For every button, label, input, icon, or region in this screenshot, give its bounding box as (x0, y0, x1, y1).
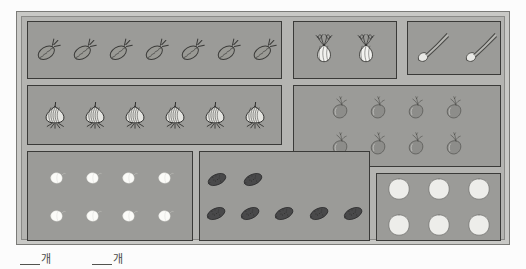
cucumber-icon (337, 200, 369, 226)
scallion-icon (409, 28, 451, 68)
unit-label-1: 개 (41, 253, 51, 266)
fennel-bulb-icon (350, 32, 382, 68)
potato-icon (423, 210, 455, 240)
garlic-clove-icon (44, 166, 68, 188)
answer-caption-row: 개 개 (0, 250, 526, 269)
eggplant-icon (365, 92, 391, 124)
worksheet-page: 개 개 (0, 0, 526, 269)
onion-grid (28, 86, 281, 144)
garlic-clove-icon (116, 166, 140, 188)
cucumber-icon (234, 200, 266, 226)
answer-blank-2[interactable]: 개 (92, 250, 123, 266)
eggplant-icon (403, 128, 429, 160)
garlic-grid (28, 152, 192, 240)
cucumber-icon (200, 200, 232, 226)
cucumber-icon (236, 166, 270, 192)
onion-icon (120, 98, 150, 132)
onion-icon (160, 98, 190, 132)
crate-interior (21, 16, 505, 240)
compartment-scallions[interactable] (407, 21, 501, 75)
produce-crate-frame (16, 11, 510, 245)
blank-line-2[interactable] (92, 255, 112, 265)
compartment-potatoes[interactable] (376, 173, 501, 241)
garlic-clove-icon (152, 166, 176, 188)
potato-icon (423, 174, 455, 204)
garlic-clove-icon (80, 204, 104, 226)
eggplants-row (294, 92, 500, 124)
compartment-cucumbers[interactable] (199, 151, 370, 241)
carrot-icon (138, 33, 172, 67)
carrot-row (28, 33, 281, 67)
cucumbers-row (200, 166, 369, 192)
potato-icon (463, 210, 495, 240)
cucumbers-row (200, 200, 369, 226)
potatoes-row (377, 210, 500, 240)
potato-icon (383, 210, 415, 240)
onion-icon (80, 98, 110, 132)
onion-row (28, 98, 281, 132)
potatoes-row (377, 174, 500, 204)
carrot-icon (246, 33, 280, 67)
compartment-onions[interactable] (27, 85, 282, 145)
scallion-grid (408, 22, 500, 74)
eggplant-icon (441, 128, 467, 160)
eggplant-icon (327, 92, 353, 124)
eggplant-icon (441, 92, 467, 124)
cucumber-grid (200, 152, 369, 240)
carrot-grid (28, 22, 281, 78)
cucumber-icon (303, 200, 335, 226)
compartment-fennel[interactable] (293, 21, 397, 79)
cucumber-icon (200, 166, 234, 192)
garlic-clove-icon (44, 204, 68, 226)
garlic-row (28, 204, 192, 226)
eggplant-icon (403, 92, 429, 124)
blank-line-1[interactable] (20, 255, 40, 265)
fennel-row (294, 32, 396, 68)
garlic-clove-icon (152, 204, 176, 226)
garlic-row (28, 166, 192, 188)
garlic-clove-icon (116, 204, 140, 226)
scallion-row (408, 28, 500, 68)
onion-icon (40, 98, 70, 132)
potato-icon (383, 174, 415, 204)
answer-blank-1[interactable]: 개 (20, 250, 51, 266)
scallion-icon (457, 28, 499, 68)
garlic-clove-icon (80, 166, 104, 188)
compartment-carrots[interactable] (27, 21, 282, 79)
carrot-icon (30, 33, 64, 67)
carrot-icon (102, 33, 136, 67)
fennel-grid (294, 22, 396, 78)
onion-icon (240, 98, 270, 132)
onion-icon (200, 98, 230, 132)
potato-grid (377, 174, 500, 240)
compartment-garlic[interactable] (27, 151, 193, 241)
cucumber-icon (268, 200, 300, 226)
fennel-bulb-icon (308, 32, 340, 68)
carrot-icon (210, 33, 244, 67)
carrot-icon (174, 33, 208, 67)
unit-label-2: 개 (113, 253, 123, 266)
potato-icon (463, 174, 495, 204)
carrot-icon (66, 33, 100, 67)
